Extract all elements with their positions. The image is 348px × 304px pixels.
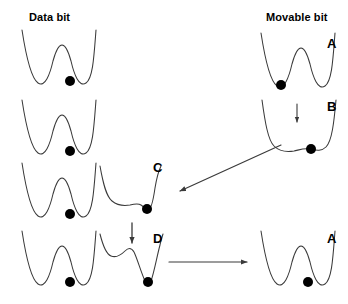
- state-label-b: B: [327, 99, 336, 114]
- ball-data-bit-row3: [65, 209, 75, 219]
- data-bit-well-row3: [22, 163, 96, 217]
- ball-data-bit-row4: [65, 277, 75, 287]
- data-bit-well-row4: [22, 231, 96, 285]
- ball-movable-A-bottom: [303, 277, 313, 287]
- state-label-d: D: [153, 231, 162, 246]
- data-bit-well-row1: [22, 30, 96, 84]
- ball-data-bit-row1: [65, 76, 75, 86]
- state-label-a-bottom: A: [327, 231, 336, 246]
- figure-canvas: Data bit Movable bit A B C D A: [0, 0, 348, 304]
- ball-movable-B: [306, 144, 316, 154]
- movable-bit-well-A-top: [261, 33, 335, 87]
- middle-well-C: [100, 166, 161, 210]
- data-bit-header: Data bit: [29, 11, 70, 23]
- movable-bit-header: Movable bit: [266, 11, 328, 23]
- ball-movable-A-top: [276, 80, 286, 90]
- data-bit-well-row2: [22, 100, 96, 154]
- state-label-c: C: [153, 160, 162, 175]
- potential-well-diagram: [0, 0, 348, 304]
- ball-data-bit-row2: [65, 146, 75, 156]
- movable-bit-well-B: [262, 100, 336, 151]
- ball-middle-C: [142, 204, 152, 214]
- movable-bit-well-A-bottom: [261, 231, 335, 285]
- arrow-b-to-c: [180, 145, 281, 191]
- ball-middle-D: [143, 277, 153, 287]
- state-label-a-top: A: [327, 36, 336, 51]
